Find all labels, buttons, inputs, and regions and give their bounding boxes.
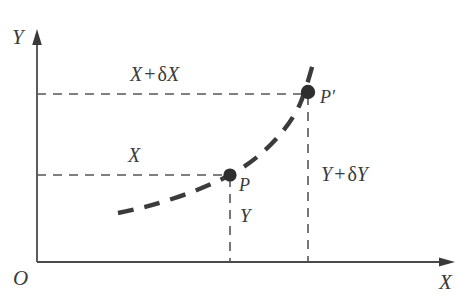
lower-x-variable-label: X (128, 145, 140, 165)
right-y-expression-label: Y+δY (321, 164, 368, 184)
right-y-delta-symbol: δ (347, 163, 356, 185)
x-axis-label: X (439, 272, 452, 293)
point-p-prime-letter: P (320, 87, 331, 107)
y-axis-label: Y (12, 27, 24, 48)
upper-x-delta-variable: X (167, 63, 179, 85)
y-axis (32, 29, 42, 262)
lower-y-variable-label: Y (240, 206, 251, 225)
point-p-label: P (239, 176, 250, 194)
point-p-marker (223, 168, 236, 181)
right-y-delta-variable: Y (357, 163, 368, 185)
x-axis (37, 257, 455, 266)
upper-x-plus-sign: + (142, 63, 157, 85)
right-y-plus-sign: + (332, 163, 347, 185)
coordinate-diagram: Y X O X+δX X Y+δY Y P P′ (0, 0, 457, 300)
upper-x-expression-label: X+δX (130, 64, 179, 84)
origin-label: O (13, 268, 28, 289)
y-axis-arrowhead (32, 29, 42, 45)
right-y-variable: Y (321, 163, 332, 185)
upper-x-delta-symbol: δ (158, 63, 167, 85)
point-p-prime-marker (301, 85, 315, 99)
diagram-canvas (0, 0, 457, 300)
upper-x-variable: X (130, 63, 142, 85)
x-axis-arrowhead (439, 257, 455, 266)
point-p-prime-label: P′ (320, 88, 335, 106)
point-p-prime-mark: ′ (331, 87, 335, 107)
